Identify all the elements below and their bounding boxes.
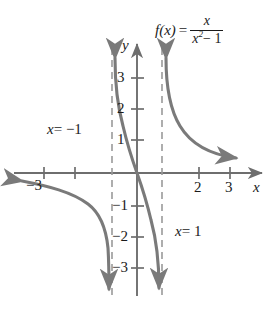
function-fraction: x x2− 1 <box>190 14 223 46</box>
x-tick-label--3: −3 <box>26 178 42 193</box>
asymptote-label-rest-left: = −1 <box>54 121 82 137</box>
curve-branch-right <box>166 58 236 158</box>
function-lhs: f(x) <box>155 22 176 39</box>
y-axis-label: y <box>122 38 129 53</box>
function-plot <box>0 0 280 309</box>
y-tick-label-3: 3 <box>117 70 125 85</box>
asymptote-label-rest-right: = 1 <box>182 223 202 239</box>
x-tick-label-3: 3 <box>225 180 233 195</box>
y-tick-label-2: 2 <box>117 101 125 116</box>
x-axis-label: x <box>253 180 260 195</box>
y-tick-label-1: 1 <box>117 132 125 147</box>
y-tick-label--1: −1 <box>112 198 128 213</box>
graph-figure: 3 2 1 −1 −2 −3 −3 2 3 y x x= −1 x= 1 f(x… <box>0 0 280 309</box>
asymptote-label-x-equals-1: x= 1 <box>175 224 201 239</box>
asymptote-label-var-left: x <box>47 121 54 137</box>
function-equals-sign: = <box>179 22 187 39</box>
curve-branch-left <box>22 181 109 289</box>
fraction-numerator: x <box>200 14 214 30</box>
asymptote-label-x-equals-neg1: x= −1 <box>47 122 82 137</box>
y-tick-label--2: −2 <box>112 229 128 244</box>
asymptote-label-var-right: x <box>175 223 182 239</box>
x-tick-label-2: 2 <box>194 180 202 195</box>
fraction-denominator: x2− 1 <box>190 31 223 47</box>
y-tick-label--3: −3 <box>112 260 128 275</box>
denominator-tail: − 1 <box>203 31 221 46</box>
function-expression-label: f(x) = x x2− 1 <box>155 14 223 46</box>
